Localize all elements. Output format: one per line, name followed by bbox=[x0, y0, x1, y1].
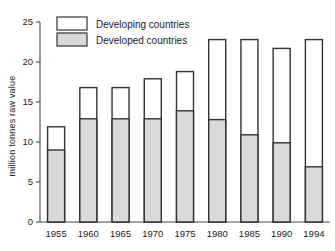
chart-legend: Developing countriesDeveloped countries bbox=[57, 17, 189, 46]
x-tick-label: 1980 bbox=[207, 228, 228, 239]
y-tick-label: 25 bbox=[22, 16, 33, 27]
legend-label: Developing countries bbox=[96, 19, 189, 30]
legend-swatch bbox=[57, 33, 87, 46]
x-tick-label: 1990 bbox=[271, 228, 292, 239]
legend-label: Developed countries bbox=[96, 35, 187, 46]
x-tick-label: 1994 bbox=[303, 228, 324, 239]
bar-segment-developed bbox=[177, 111, 194, 222]
y-tick-label: 0 bbox=[28, 216, 33, 227]
bar-segment-developed bbox=[48, 150, 65, 222]
x-axis: 195519601965197019751980198519901994 bbox=[40, 222, 330, 239]
chart-canvas: 0510152025 19551960196519701975198019851… bbox=[0, 0, 335, 251]
bar-segment-developed bbox=[241, 135, 258, 222]
bar-segment-developed bbox=[305, 167, 322, 222]
x-tick-label: 1960 bbox=[78, 228, 99, 239]
bar-segment-developed bbox=[273, 143, 290, 222]
y-tick-label: 20 bbox=[22, 56, 33, 67]
y-tick-label: 5 bbox=[28, 176, 33, 187]
x-tick-label: 1965 bbox=[110, 228, 131, 239]
y-axis: 0510152025 bbox=[22, 16, 40, 227]
bar-segment-developed bbox=[80, 119, 97, 222]
x-tick-label: 1975 bbox=[174, 228, 195, 239]
stacked-bar-chart: million tonnes raw value 0510152025 1955… bbox=[0, 0, 335, 251]
y-tick-label: 10 bbox=[22, 136, 33, 147]
bar-segment-developed bbox=[209, 120, 226, 222]
bar-segment-developed bbox=[112, 119, 129, 222]
x-tick-label: 1970 bbox=[142, 228, 163, 239]
x-tick-label: 1985 bbox=[239, 228, 260, 239]
bar-segment-developed bbox=[144, 119, 161, 222]
x-tick-label: 1955 bbox=[46, 228, 67, 239]
y-tick-label: 15 bbox=[22, 96, 33, 107]
legend-swatch bbox=[57, 17, 87, 30]
bars-layer bbox=[48, 40, 323, 222]
